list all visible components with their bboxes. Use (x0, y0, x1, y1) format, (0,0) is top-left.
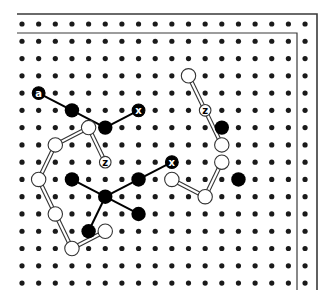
grid-dot (203, 263, 208, 268)
grid-dot (236, 125, 241, 130)
grid-dot (169, 56, 174, 61)
grid-dot (253, 194, 258, 199)
grid-dot (219, 246, 224, 251)
grid-dot (186, 160, 191, 165)
grid-dot (302, 160, 307, 165)
white-node (48, 207, 62, 221)
grid-dot (169, 21, 174, 26)
grid-dot (153, 56, 158, 61)
grid-dot (19, 125, 24, 130)
white-node (98, 224, 112, 238)
grid-dot (302, 108, 307, 113)
grid-dot (119, 90, 124, 95)
black-node (98, 190, 112, 204)
grid-dot (119, 246, 124, 251)
grid-dot (236, 160, 241, 165)
grid-dot (302, 142, 307, 147)
grid-dot (186, 39, 191, 44)
grid-dot (136, 280, 141, 285)
grid-dot (186, 142, 191, 147)
grid-dot (302, 211, 307, 216)
grid-dot (186, 280, 191, 285)
grid-dot (269, 194, 274, 199)
grid-dot (153, 73, 158, 78)
grid-dot (236, 229, 241, 234)
grid-dot (203, 246, 208, 251)
grid-dot (169, 39, 174, 44)
grid-dot (69, 39, 74, 44)
grid-dot (169, 229, 174, 234)
grid-dot (286, 21, 291, 26)
grid-dot (136, 21, 141, 26)
grid-dot (269, 280, 274, 285)
grid-dot (136, 73, 141, 78)
grid-dot (153, 90, 158, 95)
grid-dot (136, 125, 141, 130)
grid-dot (119, 73, 124, 78)
grid-dot (253, 73, 258, 78)
grid-dot (286, 142, 291, 147)
grid-dot (153, 177, 158, 182)
grid-dot (53, 90, 58, 95)
grid-dot (36, 280, 41, 285)
grid-dot (302, 73, 307, 78)
node-label: z (202, 105, 208, 116)
grid-dot (186, 108, 191, 113)
grid-dot (203, 160, 208, 165)
grid-dot (302, 90, 307, 95)
grid-dot (286, 229, 291, 234)
grid-dot (103, 108, 108, 113)
grid-dot (103, 56, 108, 61)
grid-dot (119, 56, 124, 61)
grid-dot (103, 21, 108, 26)
grid-dot (203, 142, 208, 147)
grid-dot (253, 56, 258, 61)
grid-dot (169, 194, 174, 199)
black-node (131, 207, 145, 221)
grid-dot (153, 194, 158, 199)
grid-dot (69, 90, 74, 95)
grid-dot (69, 263, 74, 268)
labeled-node-a: a (32, 87, 45, 100)
grid-dot (269, 246, 274, 251)
grid-dot (153, 108, 158, 113)
grid-dot (302, 125, 307, 130)
grid-dot (53, 263, 58, 268)
grid-dot (236, 108, 241, 113)
grid-dot (169, 211, 174, 216)
grid-dot (286, 56, 291, 61)
grid-dot (103, 39, 108, 44)
grid-dot (186, 125, 191, 130)
grid-dot (86, 177, 91, 182)
grid-dot (36, 56, 41, 61)
grid-dot (53, 280, 58, 285)
grid-dot (203, 280, 208, 285)
grid-dot (286, 160, 291, 165)
grid-dot (253, 125, 258, 130)
grid-dot (219, 108, 224, 113)
black-node (231, 172, 245, 186)
grid-dot (253, 142, 258, 147)
grid-dot (103, 211, 108, 216)
grid-dot (136, 263, 141, 268)
grid-dot (153, 142, 158, 147)
grid-dot (136, 56, 141, 61)
grid-dot (286, 108, 291, 113)
grid-dot (86, 263, 91, 268)
grid-dot (302, 229, 307, 234)
grid-dot (86, 90, 91, 95)
grid-dot (203, 21, 208, 26)
grid-dot (36, 142, 41, 147)
grid-dot (119, 263, 124, 268)
grid-dot (103, 90, 108, 95)
grid-dot (69, 21, 74, 26)
grid-dot (86, 160, 91, 165)
grid-dot (86, 73, 91, 78)
grid-dot (236, 56, 241, 61)
grid-dot (203, 211, 208, 216)
grid-dot (219, 39, 224, 44)
grid-dot (236, 39, 241, 44)
grid-dot (153, 21, 158, 26)
grid-dot (186, 90, 191, 95)
grid-dot (103, 263, 108, 268)
